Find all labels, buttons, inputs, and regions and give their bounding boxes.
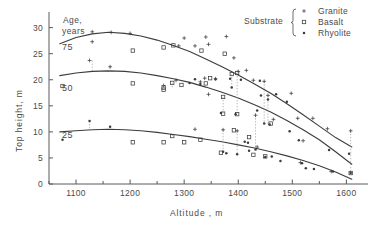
legend-title: Substrate (244, 16, 283, 26)
y-tick-label: 5 (38, 153, 43, 163)
legend-markers (302, 9, 306, 34)
series-granite (88, 30, 353, 173)
y-tick-label: 20 (33, 75, 43, 85)
y-axis-title: Top height, m (14, 89, 24, 152)
series-rhyolite (61, 77, 352, 174)
x-axis-title: Altitude , m (170, 208, 223, 218)
y-tick-label: 30 (33, 23, 43, 33)
legend-item-rhyolite: Rhyolite (318, 28, 351, 38)
x-tick-label: 1400 (228, 188, 248, 198)
y-tick-label: 25 (33, 49, 43, 59)
x-tick-label: 1300 (174, 188, 194, 198)
age-group-title-line2: years (62, 26, 85, 36)
age-group-title-line1: Age, (63, 15, 82, 25)
curve-label-50: 50 (62, 83, 73, 93)
legend-brace (291, 9, 296, 36)
y-tick-label: 10 (33, 127, 43, 137)
curve-label-25: 25 (62, 130, 73, 140)
curve-label-75: 75 (62, 42, 73, 52)
legend-item-granite: Granite (318, 6, 348, 16)
y-tick-label: 0 (38, 179, 43, 189)
x-tick-label: 1100 (66, 188, 85, 198)
x-tick-label: 1500 (282, 188, 302, 198)
x-tick-label: 1600 (336, 188, 356, 198)
x-tick-label: 1200 (120, 188, 140, 198)
series-basalt (61, 44, 353, 175)
fitted-curve-25 (60, 129, 352, 179)
chart-figure: 110012001300140015001600051015202530 Top… (0, 0, 377, 228)
y-tick-label: 15 (33, 101, 43, 111)
legend-item-basalt: Basalt (318, 17, 343, 27)
